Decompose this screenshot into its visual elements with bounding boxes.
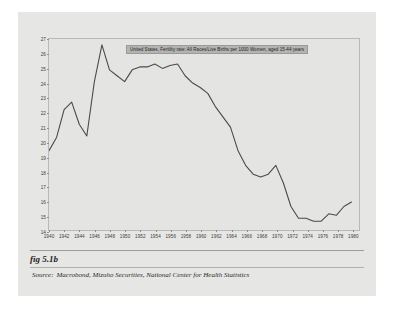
x-tick-label: 1962 <box>211 234 222 239</box>
y-tick-label: 21 <box>41 126 46 131</box>
x-tick-label: 1970 <box>272 234 283 239</box>
x-tick-label: 1946 <box>89 234 100 239</box>
x-tick-mark <box>156 230 157 232</box>
x-tick-mark <box>262 230 263 232</box>
fertility-rate-series-line <box>49 45 351 221</box>
x-tick-label: 1954 <box>150 234 161 239</box>
source-label: Source: <box>32 271 54 279</box>
x-tick-mark <box>293 230 294 232</box>
x-tick-label: 1944 <box>74 234 85 239</box>
x-tick-label: 1966 <box>242 234 253 239</box>
x-tick-mark <box>79 230 80 232</box>
y-tick-mark <box>47 39 49 40</box>
x-tick-mark <box>338 230 339 232</box>
y-tick-mark <box>47 173 49 174</box>
y-tick-mark <box>47 54 49 55</box>
y-tick-label: 17 <box>41 185 46 190</box>
y-tick-label: 19 <box>41 155 46 160</box>
x-tick-mark <box>110 230 111 232</box>
y-tick-mark <box>47 158 49 159</box>
y-tick-mark <box>47 202 49 203</box>
caption-divider-top <box>30 250 364 251</box>
y-tick-mark <box>47 187 49 188</box>
x-tick-label: 1980 <box>348 234 359 239</box>
x-tick-mark <box>323 230 324 232</box>
figure-caption: fig 5.1b <box>30 254 58 264</box>
legend: United States, Fertility rate: All Races… <box>126 45 308 54</box>
x-tick-mark <box>171 230 172 232</box>
x-tick-label: 1972 <box>287 234 298 239</box>
y-tick-mark <box>47 143 49 144</box>
x-tick-label: 1974 <box>302 234 313 239</box>
x-tick-mark <box>140 230 141 232</box>
y-tick-label: 22 <box>41 111 46 116</box>
x-tick-mark <box>49 230 50 232</box>
x-tick-label: 1948 <box>105 234 116 239</box>
x-tick-mark <box>186 230 187 232</box>
x-tick-label: 1968 <box>257 234 268 239</box>
x-tick-mark <box>308 230 309 232</box>
x-tick-label: 1958 <box>181 234 192 239</box>
y-tick-label: 25 <box>41 66 46 71</box>
x-tick-mark <box>125 230 126 232</box>
y-tick-label: 23 <box>41 96 46 101</box>
fertility-rate-line-chart <box>49 39 359 230</box>
y-tick-label: 26 <box>41 51 46 56</box>
x-tick-mark <box>353 230 354 232</box>
x-tick-label: 1942 <box>59 234 70 239</box>
x-tick-mark <box>95 230 96 232</box>
y-tick-mark <box>47 217 49 218</box>
y-tick-mark <box>47 84 49 85</box>
x-tick-label: 1940 <box>44 234 55 239</box>
y-tick-label: 27 <box>41 37 46 42</box>
legend-label: United States, Fertility rate: All Races… <box>130 47 304 52</box>
x-tick-mark <box>216 230 217 232</box>
x-tick-label: 1956 <box>165 234 176 239</box>
y-tick-mark <box>47 113 49 114</box>
x-tick-mark <box>277 230 278 232</box>
caption-divider-bottom <box>30 267 364 268</box>
chart-plot-area: United States, Fertility rate: All Races… <box>48 38 360 231</box>
y-tick-mark <box>47 128 49 129</box>
x-tick-label: 1952 <box>135 234 146 239</box>
x-tick-label: 1960 <box>196 234 207 239</box>
y-tick-label: 16 <box>41 200 46 205</box>
y-tick-label: 18 <box>41 170 46 175</box>
x-tick-label: 1978 <box>333 234 344 239</box>
x-tick-mark <box>232 230 233 232</box>
y-tick-mark <box>47 98 49 99</box>
y-tick-label: 15 <box>41 215 46 220</box>
x-tick-mark <box>247 230 248 232</box>
y-tick-mark <box>47 232 49 233</box>
y-tick-label: 20 <box>41 140 46 145</box>
x-tick-label: 1976 <box>318 234 329 239</box>
source-note: Source:Macrobond, Mizuho Securities, Nat… <box>32 271 249 279</box>
x-tick-mark <box>201 230 202 232</box>
x-tick-label: 1964 <box>226 234 237 239</box>
y-tick-mark <box>47 69 49 70</box>
x-tick-label: 1950 <box>120 234 131 239</box>
y-tick-label: 24 <box>41 81 46 86</box>
x-tick-mark <box>64 230 65 232</box>
figure-panel: United States, Fertility rate: All Races… <box>18 12 376 296</box>
source-text: Macrobond, Mizuho Securities, National C… <box>57 271 250 279</box>
